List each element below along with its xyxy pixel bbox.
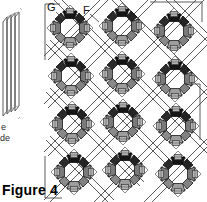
- motif-r2c3: [152, 56, 198, 102]
- lattice-label-F: F: [83, 5, 90, 16]
- motif-r2c1: [48, 53, 94, 99]
- figure-4-illustration: e de: [0, 0, 207, 202]
- motif-r4c2: [102, 147, 148, 193]
- motif-r1c3: [151, 8, 197, 54]
- figure-caption: Figure 4: [2, 182, 58, 198]
- lattice-label-G: G: [47, 2, 56, 13]
- motif-r4c3: [155, 151, 201, 197]
- diagonal-lattice-diagram: [0, 0, 207, 202]
- motif-r3c2: [100, 99, 146, 145]
- motif-r3c3: [153, 103, 199, 149]
